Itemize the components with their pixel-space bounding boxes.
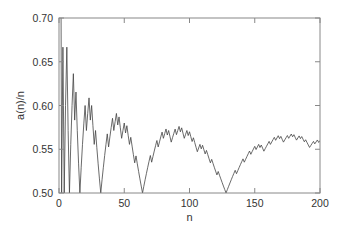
- x-tick-label: 0: [56, 197, 62, 209]
- y-axis-label: a(n)/n: [14, 91, 26, 120]
- x-axis-label: n: [186, 211, 192, 223]
- y-tick-label: 0.65: [33, 56, 54, 68]
- y-tick-labels: 0.500.550.600.650.70: [33, 12, 54, 199]
- y-tick-label: 0.50: [33, 187, 54, 199]
- y-tick-label: 0.70: [33, 12, 54, 24]
- x-tick-label: 100: [181, 197, 199, 209]
- series-line-a-n-over-n: [60, 0, 320, 193]
- x-tick-labels: 050100150200: [56, 197, 329, 209]
- chart: 050100150200 0.500.550.600.650.70 n a(n)…: [0, 0, 344, 235]
- x-tick-label: 200: [311, 197, 329, 209]
- x-tick-label: 50: [118, 197, 130, 209]
- data-line: [60, 0, 320, 193]
- y-tick-label: 0.60: [33, 100, 54, 112]
- y-tick-label: 0.55: [33, 143, 54, 155]
- x-tick-label: 150: [246, 197, 264, 209]
